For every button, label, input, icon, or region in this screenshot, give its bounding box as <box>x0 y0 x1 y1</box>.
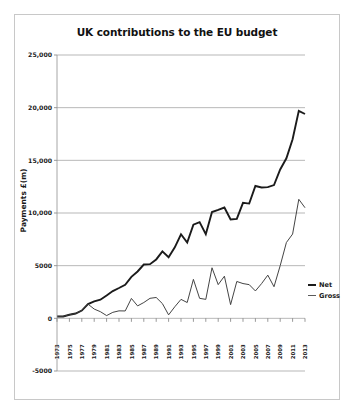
legend-label-net: Net <box>319 281 332 289</box>
chart-figure: UK contributions to the EU budget Paymen… <box>0 0 354 419</box>
x-tick-label: 1995 <box>191 344 197 359</box>
y-tick-label: 25,000 <box>28 51 53 58</box>
series-line-gross <box>57 111 305 317</box>
x-tick-label: 1983 <box>116 344 122 359</box>
x-tick-label: 1993 <box>178 344 184 359</box>
y-tick-label: 15,000 <box>28 157 53 164</box>
x-tick-label: 1999 <box>215 344 221 359</box>
y-tick-labels-group: -50000500010,00015,00020,00025,000 <box>28 51 53 374</box>
y-tick-label: -5000 <box>32 367 52 374</box>
legend-item-net: Net <box>308 279 354 290</box>
x-tick-label: 1989 <box>153 344 159 359</box>
x-tick-label: 2009 <box>277 344 283 359</box>
y-tick-label: 20,000 <box>28 104 53 111</box>
y-tick-label: 0 <box>48 315 53 322</box>
x-tick-label: 2005 <box>253 344 259 359</box>
legend-swatch-gross-icon <box>308 295 316 296</box>
x-tick-label: 1977 <box>79 344 85 359</box>
y-tick-label: 5000 <box>35 262 53 269</box>
series-line-net <box>57 199 305 316</box>
x-tick-label: 1979 <box>91 344 97 359</box>
x-tick-label: 2003 <box>240 344 246 359</box>
chart-legend: Net Gross <box>308 279 354 301</box>
legend-item-gross: Gross <box>308 290 354 301</box>
x-tick-label: 1997 <box>203 344 209 359</box>
legend-label-gross: Gross <box>319 292 340 300</box>
x-tick-marks-group <box>57 318 305 322</box>
x-tick-label: 1991 <box>166 344 172 359</box>
legend-swatch-net-icon <box>308 284 316 286</box>
x-tick-label: 2013 <box>302 344 308 359</box>
x-tick-label: 2001 <box>228 344 234 359</box>
plot-area: -50000500010,00015,00020,00025,000 19731… <box>0 0 354 419</box>
x-tick-label: 1985 <box>129 344 135 359</box>
x-tick-label: 2007 <box>265 344 271 359</box>
x-tick-label: 1987 <box>141 344 147 359</box>
y-tick-label: 10,000 <box>28 209 53 216</box>
x-tick-label: 1975 <box>67 344 73 359</box>
x-tick-label: 1981 <box>104 344 110 359</box>
x-tick-label: 2011 <box>290 344 296 359</box>
x-tick-labels-group: 1973197519771979198119831985198719891991… <box>54 344 308 359</box>
gridlines-group <box>54 55 305 371</box>
